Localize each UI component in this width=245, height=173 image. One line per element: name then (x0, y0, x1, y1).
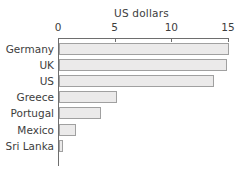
bar (59, 107, 101, 119)
bar-series (59, 38, 245, 166)
bar (59, 75, 214, 87)
y-category-label: Sri Lanka (0, 140, 54, 152)
y-category-label: Mexico (0, 124, 54, 136)
y-category-label: Greece (0, 91, 54, 103)
bar (59, 91, 117, 103)
x-axis-title-text: US dollars (114, 7, 169, 19)
x-tick-label: 5 (111, 21, 118, 33)
bar (59, 59, 227, 71)
bar (59, 124, 76, 136)
x-tick-mark (115, 38, 116, 42)
x-tick-label: 0 (55, 21, 62, 33)
x-tick-mark (228, 38, 229, 42)
y-category-label: US (0, 75, 54, 87)
y-axis-category-labels: GermanyUKUSGreecePortugalMexicoSri Lanka (0, 38, 54, 166)
x-tick-mark (58, 38, 59, 42)
x-axis-title: US dollars (0, 7, 245, 19)
y-category-label: Portugal (0, 107, 54, 119)
x-axis-tick-labels: 051015 (0, 21, 245, 35)
y-category-label: UK (0, 59, 54, 71)
bar (59, 140, 63, 152)
y-category-label: Germany (0, 43, 54, 55)
x-tick-mark (171, 38, 172, 42)
x-tick-label: 10 (165, 21, 178, 33)
bar (59, 43, 229, 55)
bar-chart: US dollars 051015 GermanyUKUSGreecePortu… (0, 0, 245, 173)
x-tick-label: 15 (221, 21, 234, 33)
